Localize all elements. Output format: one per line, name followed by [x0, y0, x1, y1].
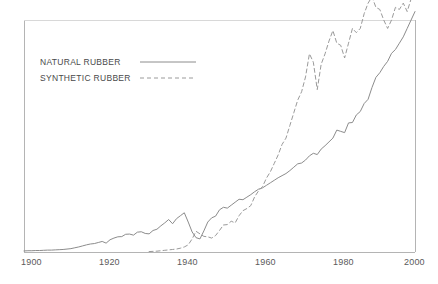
x-axis-tick-label-1960: 1960 [255, 257, 276, 267]
x-axis-tick-label-2000: 2000 [404, 257, 425, 267]
series-line-natural-rubber [24, 12, 415, 251]
series-group [24, 0, 415, 252]
chart-plot-area [0, 0, 438, 284]
chart-container: NATURAL RUBBER SYNTHETIC RUBBER 1900 192… [0, 0, 438, 284]
legend-item-synthetic-rubber: SYNTHETIC RUBBER [40, 73, 131, 83]
x-axis-tick-label-1980: 1980 [333, 257, 354, 267]
plot-frame [24, 20, 415, 252]
x-axis-tick-label-1940: 1940 [177, 257, 198, 267]
x-axis-tick-label-1900: 1900 [21, 257, 42, 267]
legend-item-natural-rubber: NATURAL RUBBER [40, 57, 121, 67]
legend-sample-lines [140, 62, 196, 78]
series-line-synthetic-rubber [149, 0, 415, 252]
x-axis-tick-label-1920: 1920 [99, 257, 120, 267]
